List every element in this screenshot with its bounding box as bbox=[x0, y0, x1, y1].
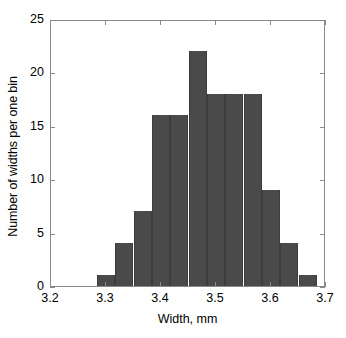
histogram-bar bbox=[225, 94, 243, 286]
x-tick-mark-top bbox=[270, 20, 271, 25]
y-tick-mark bbox=[50, 287, 55, 288]
histogram-bar bbox=[244, 94, 262, 286]
plot-area bbox=[50, 20, 325, 287]
histogram-bar bbox=[280, 243, 298, 286]
histogram-bar bbox=[152, 115, 170, 286]
x-tick-label: 3.5 bbox=[195, 291, 235, 305]
histogram-bars bbox=[51, 21, 324, 286]
y-tick-mark-right bbox=[320, 127, 325, 128]
y-tick-label: 25 bbox=[4, 12, 44, 26]
x-tick-mark-top bbox=[160, 20, 161, 25]
y-tick-mark-right bbox=[320, 234, 325, 235]
histogram-bar bbox=[134, 211, 152, 286]
histogram-bar bbox=[115, 243, 133, 286]
x-tick-label: 3.2 bbox=[30, 291, 70, 305]
x-tick-mark-top bbox=[325, 20, 326, 25]
histogram-bar bbox=[170, 115, 188, 286]
x-tick-mark-top bbox=[215, 20, 216, 25]
histogram-bar bbox=[189, 51, 207, 286]
y-tick-label: 20 bbox=[4, 65, 44, 79]
x-tick-mark bbox=[160, 282, 161, 287]
x-tick-mark bbox=[325, 282, 326, 287]
y-tick-mark bbox=[50, 73, 55, 74]
x-tick-mark-top bbox=[105, 20, 106, 25]
y-tick-mark bbox=[50, 180, 55, 181]
y-tick-mark-right bbox=[320, 287, 325, 288]
y-axis-label: Number of widths per one bin bbox=[6, 13, 26, 300]
x-tick-label: 3.4 bbox=[140, 291, 180, 305]
x-tick-mark bbox=[50, 282, 51, 287]
y-tick-mark-right bbox=[320, 180, 325, 181]
y-tick-label: 10 bbox=[4, 172, 44, 186]
y-tick-mark bbox=[50, 234, 55, 235]
x-tick-mark bbox=[215, 282, 216, 287]
x-tick-mark bbox=[105, 282, 106, 287]
histogram-bar bbox=[207, 94, 225, 286]
y-tick-label: 5 bbox=[4, 226, 44, 240]
histogram-bar bbox=[262, 190, 280, 286]
histogram-figure: Number of widths per one bin Width, mm 0… bbox=[0, 0, 346, 338]
x-tick-mark bbox=[270, 282, 271, 287]
x-tick-label: 3.3 bbox=[85, 291, 125, 305]
y-tick-mark-right bbox=[320, 73, 325, 74]
y-tick-label: 15 bbox=[4, 119, 44, 133]
x-tick-mark-top bbox=[50, 20, 51, 25]
x-axis-label: Width, mm bbox=[50, 312, 325, 326]
histogram-bar bbox=[299, 275, 317, 286]
x-tick-label: 3.7 bbox=[305, 291, 345, 305]
x-tick-label: 3.6 bbox=[250, 291, 290, 305]
y-tick-mark bbox=[50, 127, 55, 128]
